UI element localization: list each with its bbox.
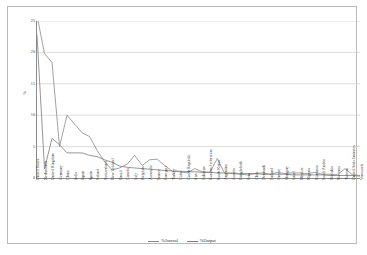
x-axis-tick-label: Italy [134, 173, 138, 180]
x-axis-tick-label: Cuba [179, 172, 183, 180]
x-axis-tick-label: Venezuela [360, 164, 364, 180]
legend-swatch-journal [148, 241, 159, 242]
x-axis-tick-label: Portugal [164, 167, 168, 180]
legend-swatch-output [187, 241, 198, 242]
figure-frame: % 0510152025 United StatesNetherlandsUni… [7, 6, 357, 244]
x-axis-tick-label: Canada [126, 168, 130, 180]
x-axis-tick-label: Pakistan [202, 167, 206, 180]
x-axis-tick-label: United Arab Emirates [352, 145, 356, 180]
x-axis-tick-label: Poland [96, 169, 100, 180]
x-axis-tick-label: Greece [277, 169, 281, 180]
x-axis-tick-label: Finland [270, 168, 274, 180]
y-axis-tick-label: 5 [33, 144, 35, 148]
chart-canvas [37, 21, 360, 178]
x-axis-tick-label: Romania [315, 166, 319, 180]
x-axis-tick-label: South Korea [217, 160, 221, 180]
x-axis-tick-label: Iran [194, 174, 198, 180]
x-axis-tick-label: Denmark [262, 165, 266, 180]
x-axis-tick-label: Brazil [119, 170, 123, 180]
x-axis-tick-label: United States [36, 159, 40, 180]
x-axis-tick-label: Turkey [172, 169, 176, 180]
y-axis-title: % [22, 91, 27, 95]
legend-entry-output: %Output [187, 239, 216, 243]
x-axis-tick-label: Czech Republic [187, 155, 191, 180]
legend-label-output: %Output [200, 239, 216, 243]
y-axis-tick-label: 10 [31, 113, 35, 117]
x-axis-tick-label: France [157, 169, 161, 180]
y-axis-tick-label: 15 [31, 82, 35, 86]
y-axis-tick-label: 20 [31, 50, 35, 54]
y-axis-tick-label: 25 [31, 19, 35, 23]
x-axis-tick-label: Russian Federation [209, 149, 213, 180]
x-axis-tick-label: China [66, 170, 70, 180]
x-axis-tick-label: Chile [255, 171, 259, 180]
series-line-journal [37, 21, 360, 175]
x-axis-tick-label: Australia [149, 165, 153, 180]
x-axis-tick-label: Belgium [141, 166, 145, 180]
x-axis-tick-label: Mexico [300, 168, 304, 180]
x-axis-tick-label: United Kingdom [51, 153, 55, 180]
chart-legend: %Journal %Output [8, 239, 356, 243]
x-axis-tick-label: Taiwan [345, 168, 349, 180]
series-line-output [37, 35, 360, 176]
x-axis-tick-label: Peru [247, 173, 251, 180]
x-axis-tick-label: India [74, 172, 78, 180]
x-axis-tick-label: Spain [89, 171, 93, 180]
x-axis-tick-label: Nigeria [307, 168, 311, 180]
legend-label-journal: %Journal [161, 239, 178, 243]
x-axis-tick-label: Switzerland [104, 161, 108, 180]
plot-area: 0510152025 [36, 21, 360, 179]
chart-page: % 0510152025 United StatesNetherlandsUni… [0, 0, 367, 255]
x-axis-tick-label: Slovakia [330, 166, 334, 180]
x-axis-tick-label: Austria [232, 168, 236, 180]
x-axis-tick-label: Hungary [285, 166, 289, 180]
x-axis-tick-label: Saudi Arabia [322, 159, 326, 180]
x-axis-labels: United StatesNetherlandsUnited KingdomGe… [36, 180, 360, 238]
legend-entry-journal: %Journal [148, 239, 178, 243]
x-axis-tick-label: Japan [81, 171, 85, 180]
x-axis-tick-label: Slovenia [337, 166, 341, 180]
x-axis-tick-label: Israel [292, 171, 296, 180]
x-axis-tick-label: Netherlands [44, 161, 48, 180]
x-axis-tick-label: New Zealand [111, 159, 115, 180]
x-axis-tick-label: Argentina [224, 164, 228, 180]
x-axis-tick-label: Bangladesh [239, 161, 243, 180]
x-axis-tick-label: Germany [59, 165, 63, 180]
